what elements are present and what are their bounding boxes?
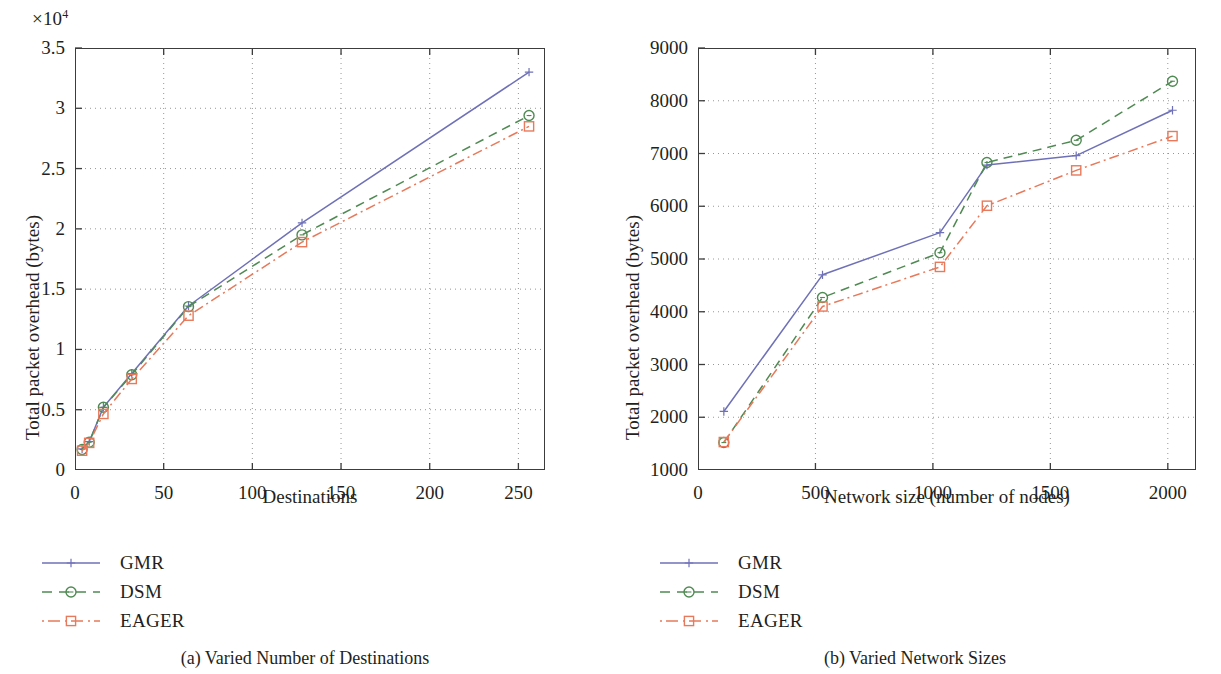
gridlines-b (698, 48, 1196, 470)
x-axis-label-a: Destinations (75, 486, 545, 508)
y-tick-label: 0.5 (0, 399, 65, 421)
y-tick-label: 9000 (620, 37, 688, 59)
legend-label-eager-b: EAGER (738, 610, 803, 632)
gridlines-a (75, 48, 545, 470)
chart-panel-a: ×104 Total packet overhead (bytes) 00.51… (0, 0, 610, 674)
legend-label-dsm-b: DSM (738, 581, 780, 603)
legend-item-gmr-a: GMR (40, 548, 185, 577)
legend-swatch-gmr-b (658, 554, 720, 572)
y-tick-label: 1.5 (0, 278, 65, 300)
legend-label-gmr-b: GMR (738, 552, 782, 574)
legend-item-gmr-b: GMR (658, 548, 803, 577)
legend-b: GMR DSM EAGER (658, 548, 803, 635)
figure-container: ×104 Total packet overhead (bytes) 00.51… (0, 0, 1221, 674)
legend-a: GMR DSM EAGER (40, 548, 185, 635)
legend-label-eager-a: EAGER (120, 610, 185, 632)
axis-ticks-a (75, 48, 518, 470)
y-tick-label: 1 (0, 338, 65, 360)
legend-label-dsm-a: DSM (120, 581, 162, 603)
y-tick-label: 4000 (620, 301, 688, 323)
y-tick-label: 1000 (620, 459, 688, 481)
legend-swatch-dsm-b (658, 583, 720, 601)
legend-item-dsm-a: DSM (40, 577, 185, 606)
series-lines-a (77, 68, 534, 455)
x-axis-label-b: Network size (number of nodes) (698, 486, 1196, 508)
legend-item-eager-a: EAGER (40, 606, 185, 635)
legend-swatch-dsm-a (40, 583, 102, 601)
y-tick-label: 3000 (620, 354, 688, 376)
legend-item-eager-b: EAGER (658, 606, 803, 635)
y-tick-label: 5000 (620, 248, 688, 270)
legend-item-dsm-b: DSM (658, 577, 803, 606)
y-tick-label: 2 (0, 218, 65, 240)
y-tick-label: 7000 (620, 143, 688, 165)
legend-swatch-gmr-a (40, 554, 102, 572)
y-tick-label: 6000 (620, 195, 688, 217)
legend-swatch-eager-b (658, 612, 720, 630)
y-tick-label: 3.5 (0, 37, 65, 59)
y-tick-label: 8000 (620, 90, 688, 112)
caption-b: (b) Varied Network Sizes (824, 648, 1006, 669)
legend-swatch-eager-a (40, 612, 102, 630)
chart-panel-b: Total packet overhead (bytes) 1000200030… (610, 0, 1221, 674)
y-tick-label: 0 (0, 459, 65, 481)
caption-a: (a) Varied Number of Destinations (181, 648, 430, 669)
y-tick-label: 2000 (620, 406, 688, 428)
series-lines-b (719, 76, 1178, 447)
y-tick-label: 3 (0, 97, 65, 119)
y-tick-label: 2.5 (0, 158, 65, 180)
legend-label-gmr-a: GMR (120, 552, 164, 574)
